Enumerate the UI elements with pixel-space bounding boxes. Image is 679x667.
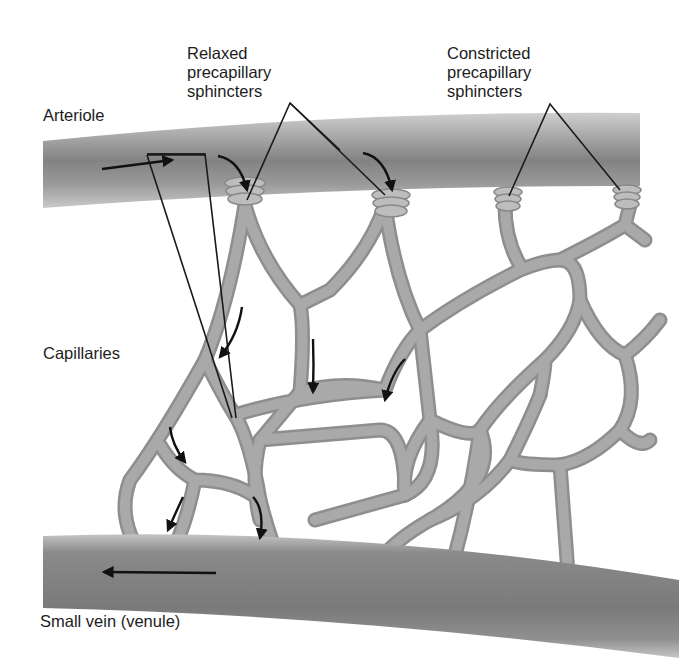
arrow-capillary: [313, 339, 314, 392]
relaxed-line-2: precapillary: [187, 63, 271, 82]
constricted-line-1: Constricted: [447, 44, 531, 63]
relaxed-line-3: sphincters: [187, 82, 271, 101]
arrow-venule-flow: [104, 572, 216, 573]
constricted-sphincter-2: [613, 185, 641, 209]
constricted-sphincter-1: [494, 187, 522, 211]
capillaries-label: Capillaries: [43, 344, 120, 363]
capillary-diagram: Arteriole Relaxed precapillary sphincter…: [0, 0, 679, 667]
constricted-line-3: sphincters: [447, 82, 531, 101]
constricted-line-2: precapillary: [447, 63, 531, 82]
arteriole-vessel: [43, 113, 640, 208]
venule-label: Small vein (venule): [40, 612, 180, 631]
arteriole-label: Arteriole: [43, 106, 104, 125]
relaxed-sphincter-2: [372, 189, 410, 217]
constricted-sphincters-label: Constricted precapillary sphincters: [447, 44, 531, 101]
relaxed-line-1: Relaxed: [187, 44, 271, 63]
venule-vessel: [43, 534, 679, 658]
diagram-canvas: [0, 0, 679, 667]
relaxed-sphincters-label: Relaxed precapillary sphincters: [187, 44, 271, 101]
